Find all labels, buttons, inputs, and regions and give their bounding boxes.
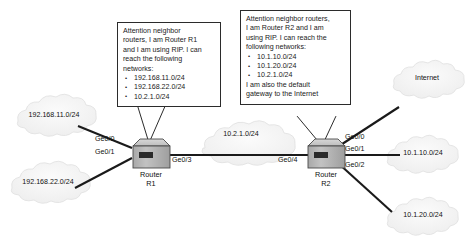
interface-label-r2-ge01: Ge0/1 (345, 145, 364, 153)
network-diagram: Attention neighbor routers, I am Router … (0, 0, 466, 243)
callout-r1-line-0: Attention neighbor (123, 27, 215, 36)
callout-r2-line-0: Attention neighbor routers, (246, 15, 345, 24)
interface-label-r1-ge01: Ge0/1 (95, 148, 114, 156)
callout-r2-outro-0: I am also the default (246, 81, 345, 90)
router-r1-label: Router R1 (121, 170, 181, 188)
router-r2-label: Router R2 (296, 170, 356, 188)
callout-r1-line-2: and I am using RIP. I can (123, 46, 215, 55)
callout-r1-line-4: networks: (123, 65, 215, 74)
callout-r1-network-list: 192.168.11.0/24 192.168.22.0/24 10.2.1.0… (123, 74, 215, 102)
diagram-canvas (0, 0, 466, 243)
callout-r2-network-list: 10.1.10.0/24 10.1.20.0/24 10.2.1.0/24 (246, 53, 345, 81)
cloud-label-10-1-20: 10.1.20.0/24 (388, 211, 458, 219)
link-r2-to-internet (336, 107, 399, 148)
callout-r2-line-2: using RIP. I can reach the (246, 34, 345, 43)
router-r2-name: Router (296, 170, 356, 179)
cloud-label-internet: Internet (394, 74, 460, 82)
interface-label-r2-ge02: Ge0/2 (345, 161, 364, 169)
router-r1-id: R1 (121, 179, 181, 188)
callout-r2-line-3: following networks: (246, 43, 345, 52)
interface-label-r1-ge03: Ge0/3 (172, 156, 191, 164)
interface-label-r2-ge04: Ge0/4 (278, 156, 297, 164)
router-r1-icon (133, 139, 170, 168)
callout-r2-network-1: 10.1.20.0/24 (246, 62, 345, 71)
interface-label-r1-ge00: Ge0/0 (95, 135, 114, 143)
cloud-label-10-1-10: 10.1.10.0/24 (388, 149, 458, 157)
callout-r2-network-0: 10.1.10.0/24 (246, 53, 345, 62)
callout-r1-line-3: reach the following (123, 55, 215, 64)
callout-r1-advertisement: Attention neighbor routers, I am Router … (117, 22, 221, 107)
cloud-label-10-2-1: 10.2.1.0/24 (205, 130, 277, 138)
interface-label-r2-ge00: Ge0/0 (345, 133, 364, 141)
callout-r2-network-2: 10.2.1.0/24 (246, 71, 345, 80)
cloud-label-192-168-22: 192.168.22.0/24 (2, 178, 94, 186)
callout-r1-network-0: 192.168.11.0/24 (123, 74, 215, 83)
callout-tail-r1 (137, 103, 166, 143)
callout-r2-outro-1: gateway to the Internet (246, 90, 345, 99)
cloud-label-192-168-11: 192.168.11.0/24 (8, 111, 100, 119)
callout-r2-line-1: I am Router R2 and I am (246, 24, 345, 33)
router-r1-name: Router (121, 170, 181, 179)
callout-r1-network-2: 10.2.1.0/24 (123, 93, 215, 102)
router-r2-icon (308, 139, 345, 168)
callout-r1-line-1: routers, I am Router R1 (123, 36, 215, 45)
callout-r1-network-1: 192.168.22.0/24 (123, 83, 215, 92)
callout-r2-advertisement: Attention neighbor routers, I am Router … (240, 10, 351, 105)
router-r2-id: R2 (296, 179, 356, 188)
